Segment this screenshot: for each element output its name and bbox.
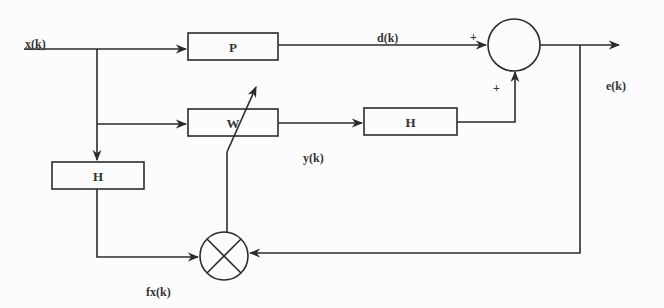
input-signal-label: x(k) (25, 38, 46, 50)
filtered-input-label: fx(k) (146, 286, 171, 298)
error-feedback-arrow (250, 45, 580, 253)
desired-signal-label: d(k) (377, 32, 398, 44)
filter-output-label: y(k) (303, 152, 324, 164)
adaptive-filter-label: W (188, 117, 278, 130)
filtered-input-arrow (97, 189, 198, 257)
secondary-path-estimate-label: H (52, 170, 144, 183)
block-diagram: x(k) d(k) y(k) e(k) fx(k) P W H H + + (0, 0, 664, 308)
sum-sign-top: + (470, 31, 477, 43)
error-signal-label: e(k) (606, 80, 626, 92)
secondary-path-label: H (364, 116, 457, 129)
sum-sign-bottom: + (493, 82, 500, 94)
h-to-sum-arrow (457, 72, 515, 122)
plant-block-label: P (188, 41, 278, 54)
summing-junction (488, 19, 540, 71)
diagram-lines (0, 0, 664, 308)
